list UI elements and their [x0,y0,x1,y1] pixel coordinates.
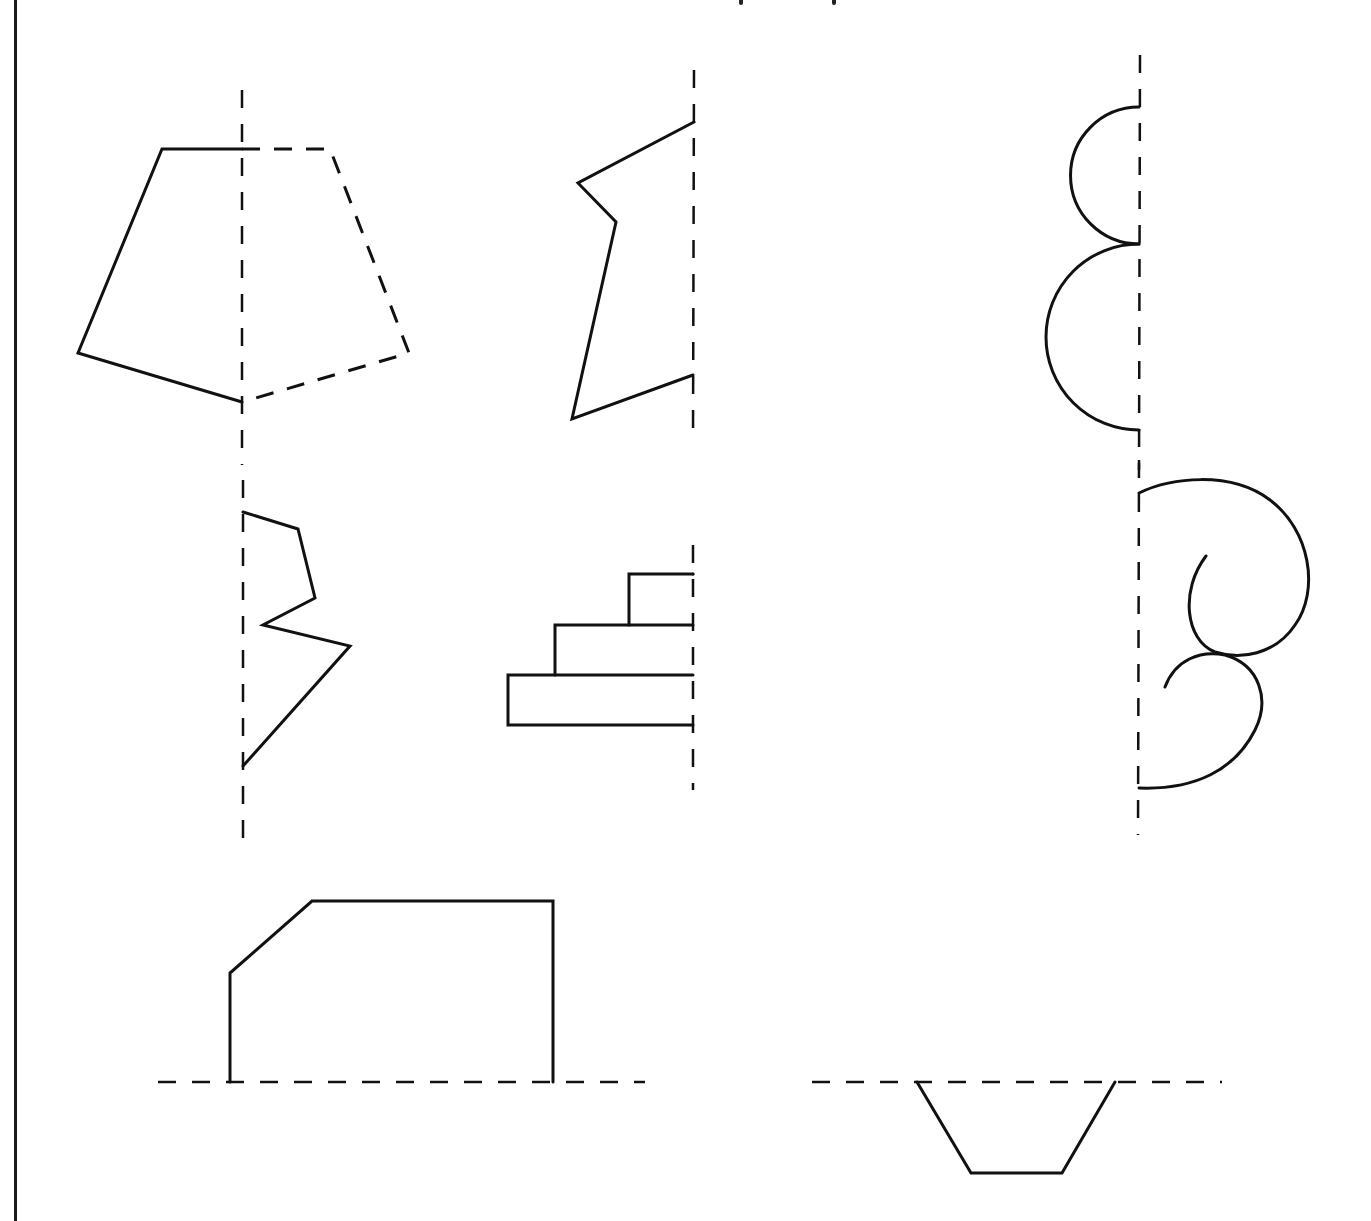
top-step [629,574,693,625]
figure-4-lightning [243,480,350,840]
symmetry-worksheet [0,0,1371,1221]
bottom-step [508,675,693,725]
small-semicircle [1071,107,1139,244]
figure-6-scroll [1138,460,1309,835]
figure-8-trapezoid [812,1082,1222,1173]
figure-7-house [158,901,645,1082]
pentagon-reflected-half [242,149,409,402]
trapezoid-half-shape [917,1082,1115,1173]
figure-2-zigzag [572,70,694,440]
lightning-half-shape [243,512,350,766]
middle-step [555,625,693,675]
house-half-shape [230,901,553,1082]
zigzag-half-shape [572,122,694,419]
figure-3-semicircles [1046,55,1140,470]
large-semicircle [1046,244,1139,430]
figure-5-steps [508,545,693,790]
vertical-symmetry-axis [1138,460,1139,835]
upper-spiral-curve [1139,480,1309,656]
vertical-symmetry-axis [1139,55,1140,470]
figure-1-pentagon [78,90,409,465]
lower-spiral-curve [1139,654,1262,788]
pentagon-left-half [78,149,242,402]
vertical-symmetry-axis [693,70,694,440]
